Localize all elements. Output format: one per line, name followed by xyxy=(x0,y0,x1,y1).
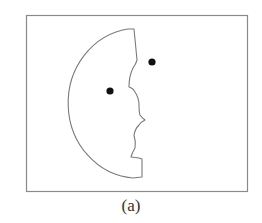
figure xyxy=(0,0,262,223)
dot-left xyxy=(106,87,113,94)
dot-upper-right xyxy=(148,58,155,65)
figure-caption: (a) xyxy=(0,196,262,216)
